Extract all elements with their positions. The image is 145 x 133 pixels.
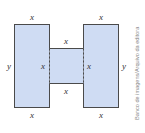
label-middle-bottom: x — [63, 86, 68, 96]
label-left-bottom: x — [29, 110, 34, 120]
label-middle-right: x — [86, 61, 91, 71]
label-right-bottom: x — [98, 110, 103, 120]
label-middle-left: x — [40, 61, 45, 71]
label-left-side: y — [6, 61, 11, 71]
label-left-top: x — [29, 12, 34, 22]
label-right-side: y — [121, 61, 126, 71]
label-right-top: x — [98, 12, 103, 22]
middle-square — [50, 49, 84, 84]
h-shape-diagram: x x y x x y x x x x Banco de imagens/Arq… — [0, 0, 145, 133]
label-middle-top: x — [63, 36, 68, 46]
image-credit: Banco de imagens/Arquivo da editora — [134, 26, 140, 120]
